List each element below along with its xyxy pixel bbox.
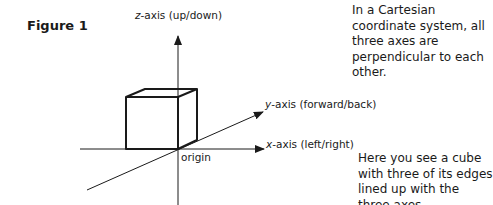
y-axis-desc: -axis (forward/back) (271, 98, 376, 110)
note-cube-edges: Here you see a cube with three of its ed… (358, 151, 493, 205)
origin-label: origin (181, 151, 211, 163)
cube (126, 89, 197, 149)
z-axis-desc: -axis (up/down) (141, 9, 223, 21)
z-axis-label: z-axis (up/down) (135, 9, 222, 21)
x-axis-label: x-axis (left/right) (266, 138, 354, 150)
y-axis-label: y-axis (forward/back) (265, 98, 376, 110)
note-perpendicular-axes: In a Cartesian coordinate system, all th… (352, 3, 492, 81)
y-axis-line (87, 112, 263, 190)
x-axis-desc: -axis (left/right) (272, 138, 354, 150)
